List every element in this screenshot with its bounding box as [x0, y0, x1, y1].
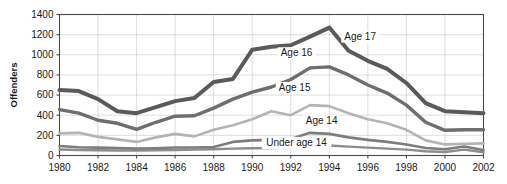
- x-tick-label: 1998: [395, 162, 418, 173]
- plot-frame: [60, 15, 484, 156]
- series-line-age-17: [60, 28, 484, 114]
- y-axis-tick-labels: 0200400600800100012001400: [31, 9, 54, 161]
- x-tick-label: 1996: [357, 162, 380, 173]
- chart-canvas: 0200400600800100012001400 19801982198419…: [0, 0, 507, 184]
- x-tick-label: 1988: [203, 162, 226, 173]
- series-label-age-14: Age 14: [306, 115, 338, 126]
- y-tick-label: 0: [48, 150, 54, 161]
- y-axis-title: Offenders: [8, 63, 19, 108]
- x-tick-label: 1984: [125, 162, 148, 173]
- y-tick-label: 800: [37, 69, 54, 80]
- x-tick-label: 2002: [472, 162, 495, 173]
- series-lines-group: [60, 28, 484, 153]
- gridlines-group: [60, 15, 484, 156]
- offenders-by-age-line-chart: 0200400600800100012001400 19801982198419…: [0, 0, 507, 184]
- x-tick-label: 1992: [280, 162, 303, 173]
- series-inline-labels: Age 17Age 16Age 15Age 14Under age 14: [262, 31, 379, 149]
- series-label-age-17: Age 17: [344, 31, 376, 42]
- y-axis-title-text: Offenders: [8, 63, 19, 108]
- y-tick-label: 1000: [31, 49, 54, 60]
- series-label-age-15: Age 15: [279, 82, 311, 93]
- x-axis-tick-labels: 1980198219841986198819901992199419961998…: [48, 162, 495, 173]
- x-tick-label: 1982: [87, 162, 110, 173]
- x-tick-label: 2000: [434, 162, 457, 173]
- x-tick-label: 1986: [164, 162, 187, 173]
- x-tick-label: 1980: [48, 162, 71, 173]
- series-label-under-age-14: Under age 14: [266, 137, 327, 148]
- x-tick-label: 1994: [318, 162, 341, 173]
- x-tick-label: 1990: [241, 162, 264, 173]
- y-tick-label: 1200: [31, 29, 54, 40]
- y-tick-label: 1400: [31, 9, 54, 20]
- series-label-age-16: Age 16: [281, 47, 313, 58]
- y-tick-label: 600: [37, 89, 54, 100]
- y-tick-label: 400: [37, 110, 54, 121]
- y-tick-label: 200: [37, 130, 54, 141]
